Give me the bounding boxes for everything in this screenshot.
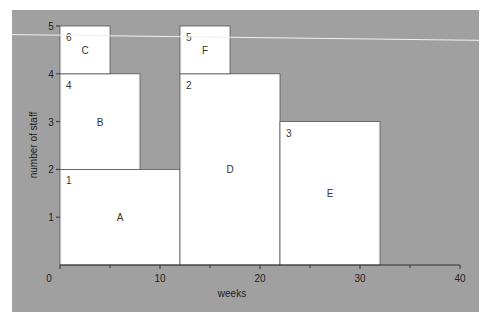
block-name-label: E	[327, 188, 334, 199]
block-order-label: 1	[66, 175, 72, 186]
block-name-label: D	[226, 164, 233, 175]
x-tick-label: 20	[254, 273, 266, 284]
block-order-label: 4	[66, 80, 72, 91]
staff-allocation-chart: 1A4B6C2D3E5F 01020304012345 weeks number…	[0, 0, 491, 322]
block-order-label: 3	[286, 128, 292, 139]
y-tick-label: 2	[48, 164, 54, 175]
y-tick-label: 1	[48, 212, 54, 223]
block-name-label: A	[117, 212, 124, 223]
block-F: 5F	[180, 26, 230, 74]
y-tick-label: 5	[48, 21, 54, 32]
x-tick-label: 10	[154, 273, 166, 284]
x-axis-title: weeks	[217, 288, 246, 299]
block-name-label: F	[202, 45, 208, 56]
y-axis-title: number of staff	[28, 112, 39, 179]
block-D: 2D	[180, 74, 280, 265]
block-name-label: B	[97, 117, 104, 128]
y-tick-label: 4	[48, 69, 54, 80]
block-C: 6C	[60, 26, 110, 74]
blocks-group: 1A4B6C2D3E5F	[60, 26, 380, 265]
x-tick-label: 30	[354, 273, 366, 284]
x-tick-label: 40	[454, 273, 466, 284]
block-A: 1A	[60, 169, 180, 265]
block-E: 3E	[280, 122, 380, 265]
x-tick-label: 0	[46, 273, 52, 284]
block-name-label: C	[81, 45, 88, 56]
y-tick-label: 3	[48, 117, 54, 128]
block-order-label: 2	[186, 80, 192, 91]
block-order-label: 5	[186, 32, 192, 43]
block-B: 4B	[60, 74, 140, 170]
block-order-label: 6	[66, 32, 72, 43]
